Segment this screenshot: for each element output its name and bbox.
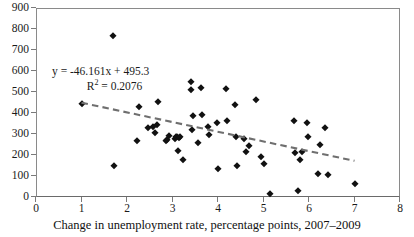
x-tick-label: 8 — [388, 203, 412, 215]
scatter-point — [304, 133, 312, 141]
y-tick-label: 500 — [0, 86, 29, 98]
scatter-point — [291, 117, 299, 125]
scatter-point — [321, 124, 329, 132]
x-tick-label: 7 — [343, 203, 367, 215]
scatter-point — [135, 104, 143, 112]
scatter-point — [151, 130, 159, 138]
x-tick-label: 1 — [70, 203, 94, 215]
scatter-point — [78, 101, 86, 109]
scatter-point — [303, 119, 311, 127]
scatter-point — [179, 156, 187, 164]
y-tick-label: 700 — [0, 44, 29, 56]
scatter-point — [194, 139, 202, 147]
scatter-point — [317, 141, 325, 149]
regression-annotation: y = -46.161x + 495.3 R2 = 0.2076 — [52, 64, 149, 93]
scatter-point — [260, 160, 268, 168]
scatter-point — [267, 190, 275, 198]
r-squared-text: R2 = 0.2076 — [52, 79, 149, 94]
scatter-plot-area — [36, 8, 400, 197]
scatter-point — [351, 181, 359, 189]
y-tick-label: 800 — [0, 23, 29, 35]
y-tick-label: 600 — [0, 65, 29, 77]
x-tick-label: 3 — [161, 203, 185, 215]
scatter-point — [222, 85, 230, 93]
x-axis-title: Change in unemployment rate, percentage … — [0, 218, 414, 233]
scatter-point — [294, 187, 302, 195]
y-tick-label: 400 — [0, 107, 29, 119]
scatter-point — [213, 119, 221, 127]
scatter-point — [110, 162, 118, 170]
scatter-point — [197, 84, 205, 92]
chart-page: 0100200300400500600700800900 012345678 y… — [0, 0, 414, 237]
scatter-point — [252, 96, 260, 104]
r-squared-value: = 0.2076 — [101, 80, 142, 92]
r-squared-exponent: 2 — [94, 78, 98, 87]
scatter-point — [187, 86, 195, 94]
scatter-point — [188, 126, 196, 134]
scatter-point — [241, 136, 249, 144]
scatter-point — [298, 148, 306, 156]
regression-equation-text: y = -46.161x + 495.3 — [52, 64, 149, 79]
x-tick-label: 6 — [297, 203, 321, 215]
y-tick-label: 100 — [0, 170, 29, 182]
x-tick-label: 2 — [115, 203, 139, 215]
y-tick-label: 300 — [0, 128, 29, 140]
scatter-point — [205, 131, 213, 139]
y-tick-label: 200 — [0, 149, 29, 161]
scatter-point — [296, 157, 304, 165]
scatter-point — [198, 111, 206, 119]
x-tick-label: 5 — [252, 203, 276, 215]
scatter-point — [174, 147, 182, 155]
x-tick-label: 0 — [24, 203, 48, 215]
scatter-point — [232, 133, 240, 141]
scatter-point — [110, 33, 118, 41]
scatter-point — [154, 98, 162, 106]
scatter-point — [223, 117, 231, 125]
y-tick-label: 0 — [0, 191, 29, 203]
scatter-point — [324, 172, 332, 180]
scatter-point — [214, 165, 222, 173]
scatter-point — [204, 123, 212, 131]
scatter-point — [314, 171, 322, 179]
x-tick-label: 4 — [206, 203, 230, 215]
scatter-point — [133, 138, 141, 146]
scatter-point — [189, 112, 197, 120]
scatter-point — [187, 78, 195, 86]
scatter-point — [231, 101, 239, 109]
y-tick-label: 900 — [0, 2, 29, 14]
scatter-point — [233, 162, 241, 170]
